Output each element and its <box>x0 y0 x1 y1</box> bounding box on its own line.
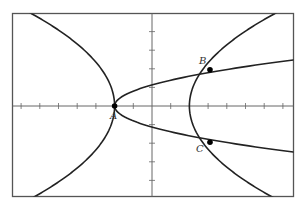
point-b <box>207 67 213 73</box>
point-label-c: C <box>196 144 204 154</box>
point-label-a: A <box>110 111 117 121</box>
axes <box>13 14 294 197</box>
point-label-b: B <box>199 56 206 66</box>
plot-frame <box>13 14 294 197</box>
point-a <box>112 103 118 109</box>
plot-canvas <box>0 0 304 210</box>
point-c <box>207 139 213 145</box>
graph: A B C <box>0 0 304 210</box>
